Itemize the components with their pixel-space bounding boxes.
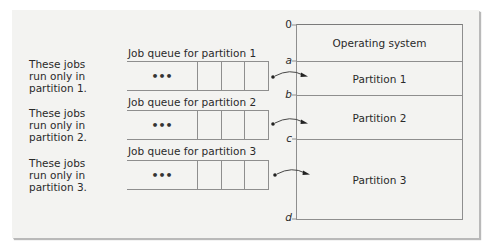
region-partition-1: Partition 1 bbox=[297, 61, 462, 95]
queue-slot bbox=[197, 111, 221, 139]
main-memory: Operating system Partition 1 Partition 2… bbox=[296, 24, 463, 220]
note-line: run only in bbox=[29, 169, 109, 181]
note-partition-2: These jobs run only in partition 2. bbox=[29, 107, 109, 143]
note-line: run only in bbox=[29, 119, 109, 131]
address-d: d bbox=[280, 211, 292, 223]
queue-slot bbox=[244, 111, 269, 139]
job-queue-1: ••• bbox=[127, 61, 269, 91]
queue-label-1: Job queue for partition 1 bbox=[128, 47, 256, 59]
note-line: These jobs bbox=[29, 157, 109, 169]
queue-slot bbox=[197, 62, 221, 90]
note-line: These jobs bbox=[29, 107, 109, 119]
ellipsis: ••• bbox=[127, 111, 197, 139]
region-label: Partition 1 bbox=[353, 73, 407, 85]
region-operating-system: Operating system bbox=[297, 25, 462, 61]
queue-slot bbox=[221, 62, 245, 90]
queue-slot bbox=[244, 62, 269, 90]
queue-label-2: Job queue for partition 2 bbox=[128, 96, 256, 108]
queue-slot bbox=[221, 111, 245, 139]
queue-label-3: Job queue for partition 3 bbox=[128, 145, 256, 157]
note-line: partition 2. bbox=[29, 131, 109, 143]
region-label: Partition 3 bbox=[353, 174, 407, 186]
note-partition-1: These jobs run only in partition 1. bbox=[29, 58, 109, 94]
queue-slot bbox=[197, 161, 221, 189]
note-partition-3: These jobs run only in partition 3. bbox=[29, 157, 109, 193]
address-0: 0 bbox=[280, 18, 292, 30]
region-label: Partition 2 bbox=[353, 112, 407, 124]
queue-slot bbox=[244, 161, 269, 189]
queue-slot bbox=[221, 161, 245, 189]
ellipsis: ••• bbox=[127, 161, 197, 189]
region-partition-2: Partition 2 bbox=[297, 95, 462, 139]
ellipsis: ••• bbox=[127, 62, 197, 90]
job-queue-2: ••• bbox=[127, 110, 269, 140]
region-partition-3: Partition 3 bbox=[297, 139, 462, 220]
note-line: These jobs bbox=[29, 58, 109, 70]
note-line: partition 1. bbox=[29, 82, 109, 94]
address-b: b bbox=[280, 88, 292, 100]
address-c: c bbox=[280, 132, 292, 144]
job-queue-3: ••• bbox=[127, 160, 269, 190]
region-label: Operating system bbox=[333, 37, 427, 49]
address-a: a bbox=[280, 54, 292, 66]
note-line: run only in bbox=[29, 70, 109, 82]
note-line: partition 3. bbox=[29, 181, 109, 193]
